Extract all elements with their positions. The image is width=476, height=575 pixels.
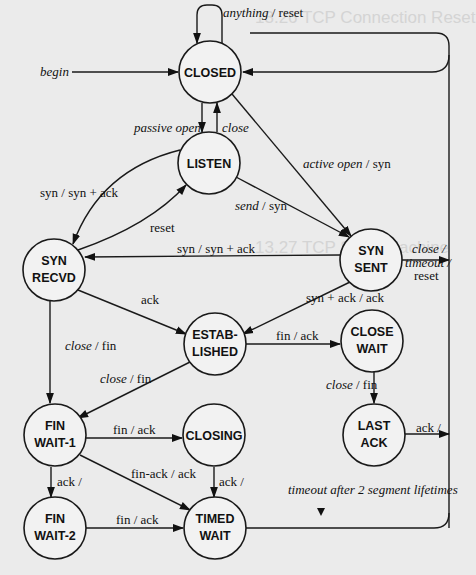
state-closing: CLOSING — [183, 404, 245, 466]
state-listen: LISTEN — [178, 132, 240, 194]
label-finwait1-finack: fin / ack — [113, 422, 156, 437]
state-syn-sent: SYN SENT — [340, 229, 402, 291]
svg-text:WAIT: WAIT — [356, 342, 388, 356]
svg-text:CLOSING: CLOSING — [186, 429, 243, 443]
svg-text:WAIT: WAIT — [199, 529, 231, 543]
edge-ack-established — [78, 290, 186, 334]
edge-finwait1-timedwait — [80, 455, 190, 510]
svg-text:RECVD: RECVD — [32, 271, 76, 285]
svg-text:WAIT-1: WAIT-1 — [34, 436, 76, 450]
svg-text:CLOSED: CLOSED — [184, 66, 236, 80]
down-arrowhead-icon — [317, 508, 325, 516]
label-listen-syn: syn / syn + ack — [40, 185, 119, 200]
state-close-wait: CLOSE WAIT — [341, 310, 403, 372]
label-reset: reset — [150, 220, 175, 235]
label-finwait2-finack: fin / ack — [116, 512, 159, 527]
svg-text:ESTAB-: ESTAB- — [192, 328, 238, 342]
state-syn-recvd: SYN RECVD — [23, 239, 85, 301]
label-close-listen: close — [222, 120, 249, 135]
svg-text:ACK: ACK — [360, 436, 387, 450]
edge-return-to-closed — [243, 55, 449, 72]
svg-text:LAST: LAST — [358, 419, 391, 433]
state-timed-wait: TIMED WAIT — [184, 497, 246, 559]
state-last-ack: LAST ACK — [343, 404, 405, 466]
svg-text:SENT: SENT — [354, 261, 388, 275]
label-active-open: active open / syn — [303, 156, 391, 171]
label-closewait-close: close / fin — [326, 377, 378, 392]
state-fin-wait-2: FIN WAIT-2 — [24, 497, 86, 559]
edge-timedwait-timeout — [246, 513, 449, 528]
label-synsent-est: syn + ack / ack — [306, 290, 385, 305]
label-est-finack: fin / ack — [276, 328, 319, 343]
svg-text:LISHED: LISHED — [192, 345, 238, 359]
label-est-close: close / fin — [100, 371, 152, 386]
svg-text:WAIT-2: WAIT-2 — [34, 529, 76, 543]
svg-text:FIN: FIN — [45, 419, 65, 433]
label-closed-self: anything / reset — [223, 5, 304, 20]
label-send-syn: send / syn — [235, 198, 288, 213]
state-closed: CLOSED — [179, 41, 241, 103]
svg-text:FIN: FIN — [45, 512, 65, 526]
svg-text:SYN: SYN — [358, 244, 384, 258]
label-finwait1-ack: ack / — [57, 474, 82, 489]
svg-text:CLOSE: CLOSE — [350, 325, 393, 339]
svg-text:SYN: SYN — [41, 254, 67, 268]
label-closing-ack: ack / — [219, 474, 244, 489]
label-begin: begin — [40, 64, 69, 79]
label-lastack-ack: ack / — [416, 420, 441, 435]
edge-closed-self — [197, 5, 222, 43]
svg-text:LISTEN: LISTEN — [187, 157, 231, 171]
label-synrecvd-ack: ack — [141, 292, 160, 307]
state-established: ESTAB- LISHED — [184, 313, 246, 375]
state-fin-wait-1: FIN WAIT-1 — [24, 404, 86, 466]
label-passive-open: passive open — [133, 120, 201, 135]
label-timeout: timeout after 2 segment lifetimes — [288, 482, 458, 497]
label-synsent-synrecvd: syn / syn + ack — [177, 241, 256, 256]
label-finwait1-finackack: fin-ack / ack — [131, 466, 196, 481]
svg-text:TIMED: TIMED — [196, 512, 235, 526]
label-synsent-close: close / — [412, 241, 447, 256]
label-synsent-reset: reset — [414, 268, 439, 283]
label-synrecvd-close: close / fin — [65, 338, 117, 353]
